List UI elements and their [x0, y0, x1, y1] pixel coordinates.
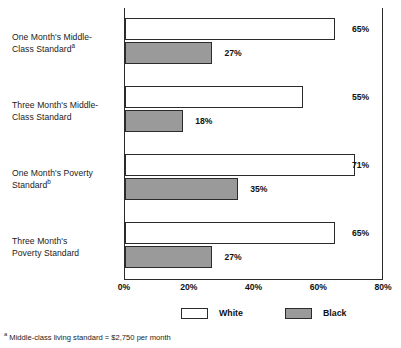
footnote: a Middle-class living standard = $2,750 …: [4, 333, 171, 342]
value-label-black-3: 27%: [224, 252, 241, 262]
x-axis-tick-0: 0%: [118, 282, 130, 292]
category-label-2-line1: One Month's Poverty: [12, 168, 93, 178]
x-axis-tick-60: 60%: [310, 282, 327, 292]
legend-item-black[interactable]: Black: [285, 306, 346, 320]
bar-white-3[interactable]: [125, 222, 335, 244]
x-axis-tick-20: 20%: [180, 282, 197, 292]
category-label-2: One Month's Poverty Standardb: [12, 168, 118, 191]
x-axis-tick-labels: 0%20%40%60%80%: [124, 282, 383, 296]
value-label-black-0: 27%: [224, 48, 241, 58]
plot-area: 27% 18% 35% 27%: [124, 8, 383, 280]
value-label-black-2: 35%: [250, 184, 267, 194]
legend-swatch-white-icon: [181, 308, 208, 319]
category-label-1: Three Month's Middle- Class Standard: [12, 100, 118, 123]
category-label-column: One Month's Middle- Class Standarda Thre…: [0, 8, 118, 280]
bar-white-2[interactable]: [125, 154, 355, 176]
footnote-marker: a: [4, 331, 7, 337]
category-label-3-line1: Three Month's: [12, 236, 67, 246]
category-label-1-line1: Three Month's Middle-: [12, 100, 98, 110]
x-axis-tick-80: 80%: [374, 282, 391, 292]
category-label-2-line2: Standard: [12, 180, 47, 190]
category-label-3-line2: Poverty Standard: [12, 248, 79, 258]
value-label-white-3: 65%: [352, 228, 392, 238]
category-label-2-marker: b: [47, 178, 51, 185]
x-axis-tick-40: 40%: [245, 282, 262, 292]
category-label-0-line1: One Month's Middle-: [12, 32, 92, 42]
value-label-white-0: 65%: [352, 24, 392, 34]
bar-chart: One Month's Middle- Class Standarda Thre…: [0, 0, 401, 348]
legend: White Black: [0, 306, 401, 324]
category-label-0-marker: a: [71, 42, 75, 49]
bar-black-3[interactable]: [125, 246, 212, 268]
category-label-3: Three Month's Poverty Standard: [12, 236, 118, 259]
bar-black-0[interactable]: [125, 42, 212, 64]
bar-white-1[interactable]: [125, 86, 303, 108]
bar-black-2[interactable]: [125, 178, 238, 200]
footnote-text: Middle-class living standard = $2,750 pe…: [9, 333, 170, 342]
legend-label-black: Black: [323, 308, 346, 318]
value-label-black-1: 18%: [195, 116, 212, 126]
category-label-1-line2: Class Standard: [12, 112, 71, 122]
value-label-white-1: 55%: [352, 92, 392, 102]
legend-label-white: White: [219, 308, 243, 318]
category-label-0-line2: Class Standard: [12, 44, 71, 54]
legend-swatch-black-icon: [285, 308, 312, 319]
legend-item-white[interactable]: White: [181, 306, 243, 320]
bar-white-0[interactable]: [125, 18, 335, 40]
bar-black-1[interactable]: [125, 110, 183, 132]
value-label-white-2: 71%: [352, 160, 392, 170]
category-label-0: One Month's Middle- Class Standarda: [12, 32, 118, 55]
